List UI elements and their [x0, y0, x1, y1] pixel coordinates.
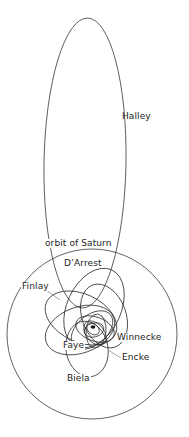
- label-halley: Halley: [122, 112, 151, 121]
- label-faye: Faye: [62, 341, 85, 350]
- label-biela: Biela: [66, 374, 91, 383]
- label-encke: Encke: [121, 353, 150, 362]
- label-winnecke: Winnecke: [116, 333, 162, 342]
- label-finlay: Finlay: [21, 282, 50, 291]
- orbit-faye: [38, 296, 121, 364]
- leader-line-encke: [108, 350, 121, 358]
- leader-line-finlay: [46, 290, 60, 300]
- orbit-svg-canvas: [0, 0, 189, 437]
- label-orbit-of-saturn: orbit of Saturn: [44, 239, 113, 248]
- comet-orbits-diagram: Halley orbit of Saturn D’Arrest Finlay W…: [0, 0, 189, 437]
- sun-marker: [91, 325, 96, 329]
- label-darrest: D’Arrest: [63, 259, 103, 268]
